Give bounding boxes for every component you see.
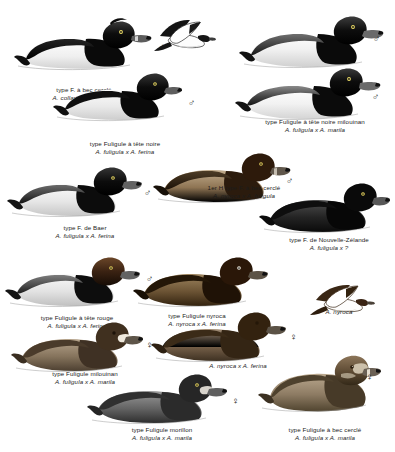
- duck-figure-3: [52, 62, 182, 130]
- caption-figure-14: type Fuligule à bec cerclé A. fuligula x…: [258, 426, 392, 442]
- caption-figure-4: type Fuligule à tête noire milouinan A. …: [240, 118, 390, 134]
- duck-figure-4b: [232, 62, 382, 126]
- caption-figure-7: type F. de Nouvelle-Zélande A. fuligula …: [266, 236, 392, 252]
- caption-sci-10: A. nyroca: [296, 308, 382, 316]
- sex-symbol-male-6: ♂: [144, 188, 151, 198]
- caption-figure-13: type Fuligule morillon A. fuligula x A. …: [96, 426, 228, 442]
- sex-symbol-male-3: ♂: [188, 98, 195, 108]
- duck-figure-6: [6, 160, 142, 222]
- caption-fr-14: type Fuligule à bec cerclé: [258, 426, 392, 434]
- duck-figure-10-flying: [300, 280, 378, 326]
- duck-figure-2-flying: [146, 14, 216, 66]
- sex-symbol-male-4a: ♂: [373, 34, 380, 44]
- caption-sci-4: A. fuligula x A. marila: [240, 126, 390, 134]
- sex-symbol-male-7: ♂: [286, 206, 293, 216]
- sex-symbol-female-14: ♀: [366, 372, 373, 382]
- caption-sci-13: A. fuligula x A. marila: [96, 434, 228, 442]
- sex-symbol-female-13: ♀: [232, 396, 239, 406]
- caption-sci-6: A. fuligula x A. ferina: [22, 232, 148, 240]
- duck-figure-13: [86, 372, 228, 428]
- caption-fr-4: type Fuligule à tête noire milouinan: [240, 118, 390, 126]
- sex-symbol-female-12: ♀: [290, 332, 297, 342]
- duck-figure-8: [4, 250, 140, 312]
- illustration-plate: ♂ type F. à bec cerclé A. collaris x A. …: [0, 0, 395, 452]
- caption-figure-6: type F. de Baer A. fuligula x A. ferina: [22, 224, 148, 240]
- duck-figure-7: [258, 178, 390, 238]
- sex-symbol-male-4b: ♂: [372, 92, 379, 102]
- duck-figure-14: [252, 348, 382, 420]
- caption-sci-14: A. fuligula x A. marila: [258, 434, 392, 442]
- caption-fr-7: type F. de Nouvelle-Zélande: [266, 236, 392, 244]
- duck-figure-11: [10, 318, 144, 376]
- caption-fr-6: type F. de Baer: [22, 224, 148, 232]
- caption-fr-13: type Fuligule morillon: [96, 426, 228, 434]
- caption-figure-10: A. nyroca: [296, 308, 382, 316]
- caption-sci-7: A. fuligula x ?: [266, 244, 392, 252]
- duck-figure-9: [132, 250, 268, 312]
